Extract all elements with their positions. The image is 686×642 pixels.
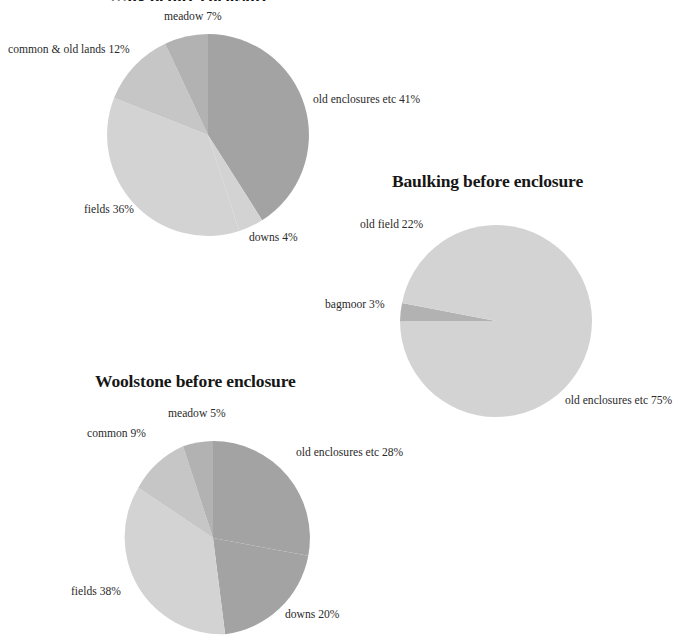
chart-woolstone-pie bbox=[115, 440, 311, 636]
chart-top-title: …ng before enclosure bbox=[110, 0, 310, 1]
chart-woolstone-meadow-label: meadow 5% bbox=[168, 408, 226, 421]
chart-baulking-title: Baulking before enclosure bbox=[392, 173, 583, 191]
chart-woolstone-common-label: common 9% bbox=[87, 428, 146, 441]
chart-woolstone-title: Woolstone before enclosure bbox=[95, 373, 296, 391]
chart-baulking-bagmoor-label: bagmoor 3% bbox=[325, 299, 385, 312]
chart-woolstone-old-enclosures-label: old enclosures etc 28% bbox=[296, 447, 403, 460]
chart-top-meadow-label: meadow 7% bbox=[164, 11, 222, 24]
chart-top-downs-label: downs 4% bbox=[249, 232, 298, 245]
chart-woolstone-fields-label: fields 38% bbox=[71, 586, 121, 599]
chart-top-old-enclosures-label: old enclosures etc 41% bbox=[313, 94, 420, 107]
chart-baulking-pie bbox=[399, 224, 593, 418]
chart-woolstone-downs-label: downs 20% bbox=[285, 609, 339, 622]
chart-top-fields-label: fields 36% bbox=[84, 204, 134, 217]
chart-top-common-old-lands-label: common & old lands 12% bbox=[8, 44, 130, 57]
chart-baulking-old-enclosures-label: old enclosures etc 75% bbox=[565, 395, 672, 408]
chart-top-pie bbox=[106, 33, 310, 237]
chart-baulking-old-field-label: old field 22% bbox=[360, 219, 423, 232]
pie-charts-page: …ng before enclosure meadow 7% common & … bbox=[0, 0, 686, 642]
